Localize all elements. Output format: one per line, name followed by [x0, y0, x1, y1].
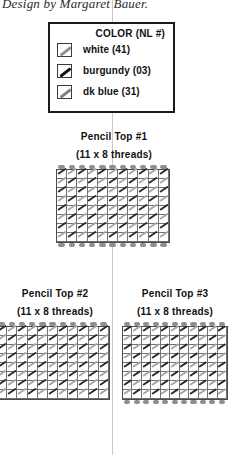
chart-cell [28, 390, 38, 399]
chart-edge-motif [38, 321, 48, 327]
chart-edge-motif [132, 399, 141, 405]
chart-cell [218, 390, 227, 399]
chart-edge-motif [138, 164, 148, 170]
chart-cell [57, 233, 67, 242]
chart-edge-motif [149, 242, 159, 248]
chart-edge-motif [123, 321, 132, 327]
chart-cell [199, 390, 208, 399]
chart-cell [142, 390, 151, 399]
chart-edge-motif [218, 399, 227, 405]
pattern-page: Design by Margaret Bauer. COLOR (NL #) w… [0, 0, 228, 455]
chart-edge-motif [132, 321, 141, 327]
chart-cell [170, 390, 179, 399]
chart-cell [88, 233, 98, 242]
chart-title-3: Pencil Top #3 [122, 288, 228, 299]
chart-cell [128, 233, 138, 242]
chart-edge-motif-row [57, 242, 169, 248]
chart-edge-motif [118, 164, 128, 170]
chart-edge-motif [118, 242, 128, 248]
chart-edge-motif [58, 321, 68, 327]
chart-subtitle-1: (11 x 8 threads) [34, 149, 194, 160]
chart-edge-motif [78, 399, 88, 400]
chart-edge-motif [108, 242, 118, 248]
legend-label-white: white (41) [83, 44, 130, 55]
chart-edge-motif [38, 399, 48, 400]
chart-grid-wrap-2 [0, 326, 110, 400]
legend-label-burgundy: burgundy (03) [83, 65, 151, 76]
chart-edge-motif [28, 321, 38, 327]
chart-grid-3 [122, 326, 228, 400]
chart-edge-motif [89, 399, 99, 400]
chart-subtitle-2: (11 x 8 threads) [0, 306, 110, 317]
chart-title-1: Pencil Top #1 [34, 131, 194, 142]
chart-edge-motif [48, 321, 58, 327]
chart-edge-motif [199, 321, 208, 327]
chart-edge-motif [189, 321, 198, 327]
chart-cell [123, 390, 132, 399]
chart-cell [38, 390, 48, 399]
chart-edge-motif [170, 399, 179, 405]
chart-edge-motif [57, 242, 67, 248]
chart-edge-motif [58, 399, 68, 400]
chart-edge-motif [128, 242, 138, 248]
chart-edge-motif [159, 242, 169, 248]
chart-edge-motif-row [123, 321, 227, 327]
chart-edge-motif [128, 164, 138, 170]
chart-edge-motif [108, 164, 118, 170]
chart-edge-motif [199, 399, 208, 405]
chart-edge-motif-row [0, 321, 109, 327]
chart-cell [67, 233, 77, 242]
chart-edge-motif [218, 321, 227, 327]
chart-grid-wrap-3 [122, 326, 228, 400]
chart-edge-motif [208, 399, 217, 405]
chart-edge-motif [88, 242, 98, 248]
attribution-text: Design by Margaret Bauer. [2, 0, 148, 12]
legend-label-dk-blue: dk blue (31) [83, 86, 140, 97]
chart-edge-motif [77, 242, 87, 248]
chart-edge-motif [48, 399, 58, 400]
chart-cell [149, 233, 159, 242]
chart-cell [118, 233, 128, 242]
chart-edge-motif [7, 399, 17, 400]
chart-edge-motif [170, 321, 179, 327]
chart-cell [132, 390, 141, 399]
chart-edge-motif [57, 164, 67, 170]
legend-row-white: white (41) [50, 39, 173, 60]
chart-edge-motif [142, 399, 151, 405]
chart-edge-motif [180, 321, 189, 327]
chart-edge-motif-row [0, 399, 109, 400]
color-legend: COLOR (NL #) white (41) burgundy (03) dk… [48, 22, 175, 113]
chart-cell [138, 233, 148, 242]
chart-block-pencil-top-3: Pencil Top #3 (11 x 8 threads) [122, 288, 228, 400]
chart-edge-motif [67, 242, 77, 248]
chart-edge-motif [151, 399, 160, 405]
chart-cell [208, 390, 217, 399]
legend-row-burgundy: burgundy (03) [50, 60, 173, 81]
chart-edge-motif [159, 164, 169, 170]
chart-cell [99, 390, 109, 399]
pencil-swatch-icon-burgundy [57, 64, 72, 78]
chart-block-pencil-top-1: Pencil Top #1 (11 x 8 threads) [34, 131, 194, 243]
chart-edge-motif [98, 164, 108, 170]
chart-cell [68, 390, 78, 399]
chart-cell [0, 390, 7, 399]
chart-edge-motif [67, 164, 77, 170]
legend-row-dk-blue: dk blue (31) [50, 81, 173, 102]
chart-cell [78, 390, 88, 399]
chart-grid-2 [0, 326, 110, 400]
chart-cell [159, 233, 169, 242]
chart-cell [58, 390, 68, 399]
chart-cell [48, 390, 58, 399]
chart-grid-1 [56, 169, 170, 243]
chart-edge-motif [28, 399, 38, 400]
chart-cell [161, 390, 170, 399]
chart-cell [151, 390, 160, 399]
chart-cell [180, 390, 189, 399]
chart-cell [77, 233, 87, 242]
chart-edge-motif [0, 399, 7, 400]
chart-edge-motif [180, 399, 189, 405]
legend-header: COLOR (NL #) [50, 24, 173, 39]
chart-edge-motif [149, 164, 159, 170]
chart-edge-motif [99, 399, 109, 400]
chart-edge-motif [77, 164, 87, 170]
